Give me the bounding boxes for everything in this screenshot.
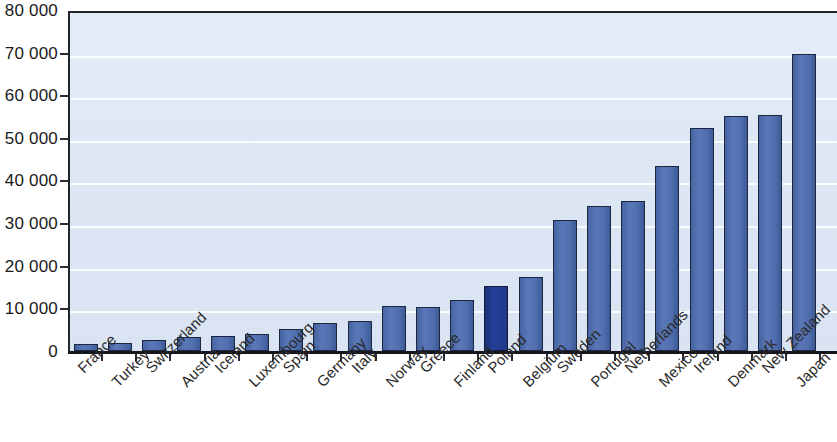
y-axis-tick-mark bbox=[60, 223, 68, 225]
bar-chart: 010 00020 00030 00040 00050 00060 00070 … bbox=[0, 0, 837, 442]
bar-norway bbox=[382, 306, 406, 351]
y-axis-tick-mark bbox=[60, 180, 68, 182]
y-axis-tick-label: 60 000 bbox=[5, 86, 58, 106]
y-axis-tick-label: 80 000 bbox=[5, 1, 58, 21]
y-axis-tick-mark bbox=[60, 95, 68, 97]
y-axis-tick-label: 10 000 bbox=[5, 299, 58, 319]
y-axis-tick-mark bbox=[60, 138, 68, 140]
bar-denmark bbox=[724, 116, 748, 351]
bar-ireland bbox=[690, 128, 714, 351]
x-axis-label-japan: Japan bbox=[792, 349, 833, 390]
y-axis-tick-label: 50 000 bbox=[5, 129, 58, 149]
y-axis-tick-label: 40 000 bbox=[5, 171, 58, 191]
y-axis-tick-mark bbox=[60, 308, 68, 310]
bars-layer bbox=[70, 13, 837, 351]
bar-japan bbox=[792, 54, 816, 351]
plot-area bbox=[68, 11, 837, 354]
y-axis-tick-label: 0 bbox=[48, 342, 58, 362]
y-axis-tick-label: 30 000 bbox=[5, 214, 58, 234]
y-axis-tick-mark bbox=[60, 266, 68, 268]
bar-new-zealand bbox=[758, 115, 782, 351]
bar-netherlands bbox=[621, 201, 645, 351]
y-axis: 010 00020 00030 00040 00050 00060 00070 … bbox=[0, 0, 66, 360]
y-axis-tick-mark bbox=[60, 53, 68, 55]
y-axis-tick-label: 20 000 bbox=[5, 257, 58, 277]
y-axis-tick-label: 70 000 bbox=[5, 44, 58, 64]
bar-sweden bbox=[553, 220, 577, 351]
x-axis: FranceTurkeySwitzerlandAustriaIcelandLux… bbox=[68, 354, 837, 442]
